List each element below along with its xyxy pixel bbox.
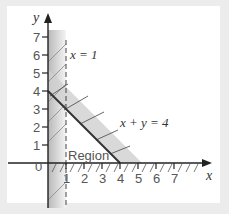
y-tick-label: 5 (33, 66, 40, 81)
y-tick-label: 2 (33, 120, 40, 135)
label-x-plus-y-equals-4: x + y = 4 (119, 115, 169, 130)
y-tick-label: 3 (33, 102, 40, 117)
y-axis-label: y (31, 10, 40, 25)
y-tick-label: 7 (33, 30, 40, 45)
x-tick-label: 3 (99, 171, 106, 186)
label-x-equals-1: x = 1 (69, 47, 98, 62)
x-tick-label: 5 (135, 171, 142, 186)
y-tick-label: 4 (33, 84, 40, 99)
y-tick-label: 1 (33, 138, 40, 153)
x-axis-label: x (205, 168, 213, 183)
x-tick-label: 7 (171, 171, 178, 186)
region-label: Region (68, 148, 109, 163)
y-tick-label: 6 (33, 48, 40, 63)
y-ticks (42, 37, 48, 145)
x-tick-label: 2 (81, 171, 88, 186)
x-tick-label: 4 (117, 171, 124, 186)
x-tick-label: 6 (153, 171, 160, 186)
x-ticks (66, 163, 174, 169)
y-axis-arrow-icon (44, 13, 52, 23)
x-tick-label: 1 (63, 171, 70, 186)
x-axis-arrow-icon (202, 159, 212, 167)
inequality-graph: y x 0 1 2 3 4 5 6 7 1 2 3 4 5 6 7 x = 1 … (0, 0, 229, 214)
origin-label: 0 (35, 159, 42, 174)
